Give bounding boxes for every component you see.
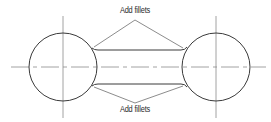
bottom-tangent-edge <box>92 84 187 87</box>
top-annotation-label: Add fillets <box>110 5 159 15</box>
bottom-leader-lines <box>94 86 183 103</box>
bottom-annotation-label: Add fillets <box>110 104 159 114</box>
top-leader-lines <box>94 20 183 48</box>
top-tangent-edge <box>92 47 187 50</box>
